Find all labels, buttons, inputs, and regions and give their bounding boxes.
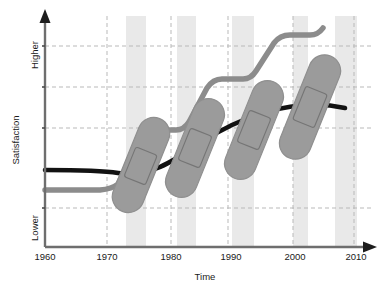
x-tick-label-2000: 2000 — [284, 251, 305, 262]
y-axis-title: Satisfaction — [10, 115, 21, 164]
bandage-shape — [220, 76, 289, 184]
y-tick-label-lower: Lower — [29, 215, 40, 241]
x-tick-label-1970: 1970 — [96, 251, 117, 262]
x-axis-title: Time — [195, 271, 216, 282]
x-tick-label-1990: 1990 — [220, 251, 241, 262]
y-tick-label-higher: Higher — [29, 41, 40, 69]
y-axis-arrow — [40, 9, 51, 23]
x-tick-label-2010: 2010 — [345, 251, 366, 262]
chart-container: 1960 1970 1980 1990 2000 2010 Higher Low… — [0, 0, 390, 290]
x-tick-label-1980: 1980 — [160, 251, 181, 262]
satisfaction-over-time-chart: 1960 1970 1980 1990 2000 2010 Higher Low… — [0, 0, 390, 290]
x-tick-label-1960: 1960 — [34, 251, 55, 262]
